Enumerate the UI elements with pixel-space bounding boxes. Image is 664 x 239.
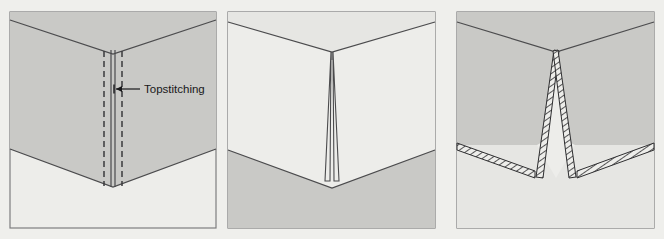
panel-3-canvas bbox=[455, 0, 656, 239]
topstitching-label: Topstitching bbox=[144, 83, 205, 95]
panel-serged-seam-allowance bbox=[455, 0, 656, 239]
panel-open-wedge-pleat bbox=[226, 0, 437, 239]
panel-topstitched-pleat: Topstitching bbox=[8, 0, 218, 239]
panel-1-canvas: Topstitching bbox=[8, 0, 218, 239]
figure-root: Topstitching bbox=[0, 0, 664, 239]
panel-2-canvas bbox=[226, 0, 437, 239]
